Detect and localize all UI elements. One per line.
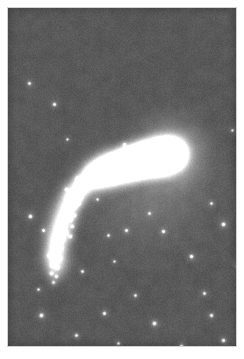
sky-plate xyxy=(8,8,236,346)
figure-root: Grayscale astronomical image of an irreg… xyxy=(0,0,244,359)
astronomical-image-canvas xyxy=(8,8,236,346)
